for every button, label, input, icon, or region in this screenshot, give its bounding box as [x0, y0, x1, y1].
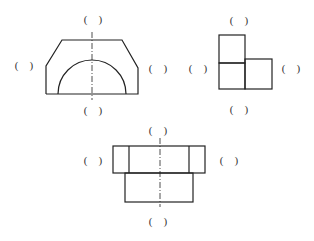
blank-top-view2: ( ) — [230, 14, 248, 26]
stepped-block-view — [113, 138, 205, 207]
bottom-rect — [125, 173, 193, 202]
blank-right-view1: ( ) — [149, 62, 167, 74]
drawing-canvas — [0, 0, 314, 241]
blank-right-view2: ( ) — [282, 62, 300, 74]
blank-left-view2: ( ) — [189, 62, 207, 74]
blank-left-view3: ( ) — [84, 154, 102, 166]
blank-top-view3: ( ) — [149, 124, 167, 136]
blank-bottom-view2: ( ) — [230, 103, 248, 115]
blank-right-view3: ( ) — [220, 154, 238, 166]
trapezoid-arch-view — [46, 32, 138, 100]
blank-top-view1: ( ) — [84, 13, 102, 25]
l-shape-view — [219, 35, 272, 89]
blank-bottom-view3: ( ) — [149, 215, 167, 227]
upper-left-square — [219, 35, 245, 63]
blank-bottom-view1: ( ) — [84, 104, 102, 116]
lower-left-square — [219, 63, 245, 89]
blank-left-view1: ( ) — [15, 59, 33, 71]
top-rect — [113, 146, 205, 173]
right-square — [245, 59, 272, 89]
